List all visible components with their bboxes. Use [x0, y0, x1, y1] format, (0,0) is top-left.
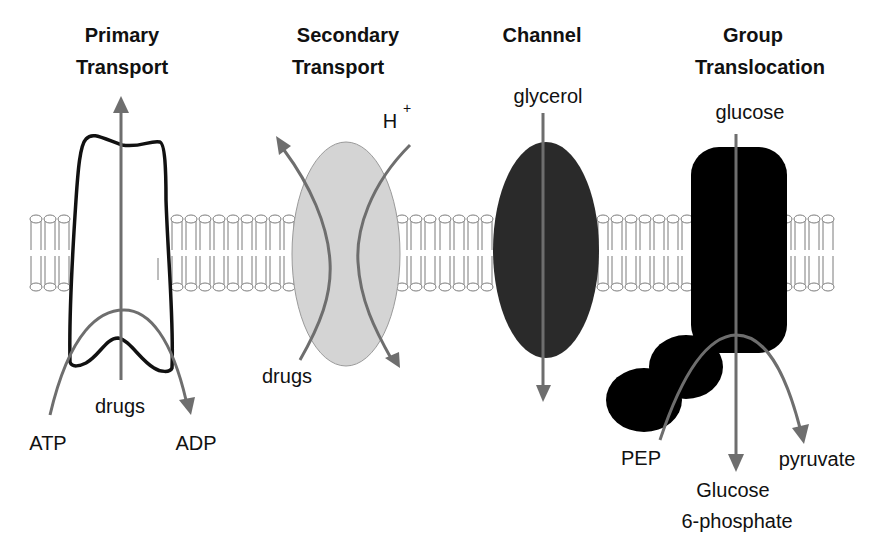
- glycerol-down-arrowhead-icon: [536, 385, 551, 402]
- pyruvate-arrowhead-icon: [792, 424, 809, 444]
- group-label-pyruvate: pyruvate: [779, 448, 856, 470]
- primary-title-line2: Transport: [76, 56, 169, 78]
- group-translocation-panel: Group Translocation glucose PEP pyruvate…: [606, 24, 855, 532]
- group-label-product-line1: Glucose: [696, 479, 769, 501]
- group-label-product-line2: 6-phosphate: [681, 510, 792, 532]
- secondary-title-line2: Transport: [292, 56, 385, 78]
- primary-label-drugs: drugs: [95, 395, 145, 417]
- adp-arrowhead-icon: [179, 397, 195, 415]
- glucose-down-arrowhead-icon: [728, 454, 744, 472]
- secondary-transport-panel: Secondary Transport H + drugs: [262, 24, 411, 387]
- group-title-line2: Translocation: [695, 56, 825, 78]
- membrane-transport-diagram: Primary Transport drugs ATP ADP Secondar…: [0, 0, 889, 557]
- channel-title: Channel: [503, 24, 582, 46]
- secondary-label-drugs: drugs: [262, 365, 312, 387]
- primary-transport-panel: Primary Transport drugs ATP ADP: [29, 24, 216, 454]
- channel-panel: Channel glycerol: [493, 24, 599, 402]
- group-label-pep: PEP: [621, 447, 661, 469]
- channel-label-glycerol: glycerol: [514, 85, 583, 107]
- secondary-title-line1: Secondary: [297, 24, 400, 46]
- primary-label-adp: ADP: [175, 432, 216, 454]
- group-title-line1: Group: [723, 24, 783, 46]
- channel-protein: [493, 142, 599, 358]
- primary-title-line1: Primary: [85, 24, 160, 46]
- secondary-label-charge: +: [403, 100, 411, 116]
- drugs-up-left-arrowhead-icon: [276, 136, 291, 155]
- drugs-up-arrowhead-icon: [113, 96, 129, 113]
- secondary-label-h: H: [383, 110, 397, 132]
- primary-label-atp: ATP: [29, 432, 66, 454]
- pts-membrane-enzyme: [691, 147, 787, 353]
- group-label-glucose: glucose: [716, 101, 785, 123]
- pts-cytoplasmic-enzyme-2: [606, 368, 682, 432]
